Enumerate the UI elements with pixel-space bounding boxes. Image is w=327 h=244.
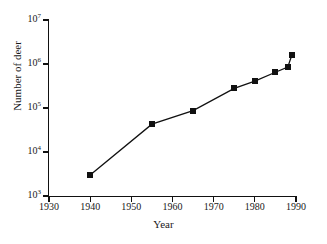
data-point-marker: [149, 121, 155, 127]
data-point-marker: [272, 69, 278, 75]
data-point-marker: [285, 64, 291, 70]
data-point-marker: [190, 108, 196, 114]
data-point-marker: [252, 78, 258, 84]
data-point-marker: [289, 52, 295, 58]
y-axis-title: Number of deer: [11, 16, 23, 136]
series-line: [90, 55, 292, 175]
x-axis-title: Year: [0, 218, 327, 230]
data-point-marker: [231, 85, 237, 91]
data-point-marker: [87, 172, 93, 178]
deer-population-chart: 103104105106107 193019401950196019701980…: [0, 0, 327, 244]
data-series-layer: [0, 0, 327, 244]
